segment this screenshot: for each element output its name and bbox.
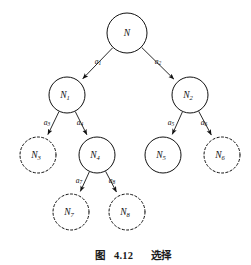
caption-number: 4.12	[114, 250, 133, 261]
edge-label-a4: a4	[77, 118, 84, 127]
node-n5[interactable]: N5	[145, 137, 181, 173]
edge-label-a7: a7	[76, 176, 83, 185]
node-n[interactable]: N	[107, 13, 147, 53]
node-n2[interactable]: N2	[172, 77, 208, 113]
edge-label-a3: a3	[44, 118, 51, 127]
node-n7[interactable]: N7	[53, 194, 89, 230]
edge-label-a8: a8	[109, 176, 116, 185]
figure-caption: 图4.12选择	[0, 235, 251, 265]
node-label-n: N	[123, 28, 131, 38]
edge-label-a6: a6	[201, 118, 208, 127]
edges-layer	[48, 47, 212, 192]
caption-title: 选择	[151, 249, 171, 261]
node-n6[interactable]: N6	[204, 137, 240, 173]
node-n1[interactable]: N1	[49, 77, 85, 113]
edge-label-a2: a2	[155, 57, 162, 66]
node-n3[interactable]: N3	[20, 137, 56, 173]
edge-label-a5: a5	[168, 118, 175, 127]
edge-labels-layer: a1a2a3a4a5a6a7a8	[44, 57, 208, 185]
caption-prefix: 图	[95, 249, 105, 261]
node-n8[interactable]: N8	[109, 194, 145, 230]
edge-label-a1: a1	[95, 57, 102, 66]
node-n4[interactable]: N4	[79, 137, 115, 173]
